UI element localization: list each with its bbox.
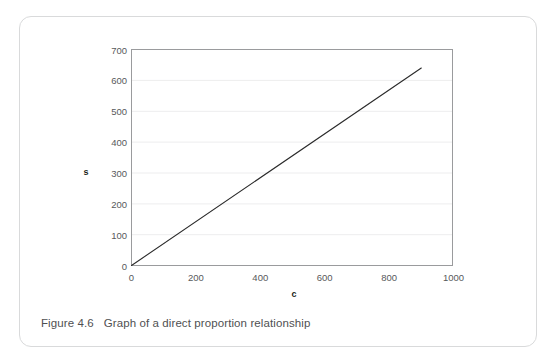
y-tick-label-400: 400 xyxy=(101,137,127,148)
y-tick-label-100: 100 xyxy=(101,229,127,240)
x-tick-label-200: 200 xyxy=(176,272,216,283)
figure-caption: Figure 4.6 Graph of a direct proportion … xyxy=(41,317,310,329)
x-tick-label-400: 400 xyxy=(240,272,280,283)
y-tick-label-700: 700 xyxy=(101,44,127,55)
x-tick-label-800: 800 xyxy=(369,272,409,283)
y-tick-label-600: 600 xyxy=(101,75,127,86)
y-axis-title: s xyxy=(79,167,93,177)
chart-plot-svg xyxy=(20,17,538,297)
x-axis-title: c xyxy=(274,289,314,299)
gridlines-horizontal xyxy=(131,50,453,235)
data-line xyxy=(132,68,422,266)
x-tick-label-0: 0 xyxy=(112,272,152,283)
y-tick-label-200: 200 xyxy=(101,198,127,209)
x-tick-label-600: 600 xyxy=(305,272,345,283)
y-tick-label-0: 0 xyxy=(101,260,127,271)
y-tick-label-300: 300 xyxy=(101,168,127,179)
series-direct-proportion xyxy=(132,68,422,266)
chart-region: s c 700 600 500 400 300 200 100 0 0 200 … xyxy=(20,17,538,297)
y-tick-label-500: 500 xyxy=(101,106,127,117)
figure-card: s c 700 600 500 400 300 200 100 0 0 200 … xyxy=(19,16,537,347)
x-tick-label-1000: 1000 xyxy=(434,272,474,283)
